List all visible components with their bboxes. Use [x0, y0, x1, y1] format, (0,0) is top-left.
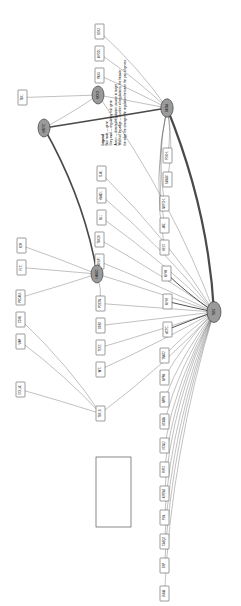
graph-edge	[100, 32, 168, 109]
gene-node[interactable]: RYR2	[160, 462, 169, 477]
gene-node-label: ATP2A2	[162, 488, 166, 498]
hub-node-label: NKX25	[96, 90, 100, 99]
gene-node-label: TBX20	[97, 235, 101, 243]
gene-node[interactable]: TBX18	[96, 406, 105, 421]
gene-node-label: DSP	[162, 563, 166, 569]
graph-edge	[21, 274, 98, 298]
gene-node[interactable]: JAG1	[160, 218, 169, 233]
gene-node[interactable]: KDR	[17, 238, 26, 253]
gene-node-label: KCNJ2	[162, 441, 166, 450]
gene-node-label: PLN	[162, 515, 166, 520]
hub-node-label: MEF2C	[42, 123, 46, 132]
gene-node-label: FLT1	[19, 264, 23, 270]
gene-node-label: NOTCH1	[162, 198, 166, 209]
gene-node-label: NPPA	[162, 374, 166, 381]
gene-node-label: MESP1	[97, 257, 101, 266]
legend-box	[96, 457, 131, 527]
gene-node[interactable]: CDH5	[16, 312, 25, 327]
gene-node[interactable]: TNNT2	[160, 348, 169, 363]
graph-edge	[167, 274, 215, 313]
gene-node[interactable]: KCNJ2	[160, 438, 169, 453]
gene-node-label: POSTN	[98, 299, 102, 308]
gene-node[interactable]: DSP	[160, 558, 169, 573]
gene-node-label: MYOD1	[97, 48, 101, 58]
gene-node[interactable]: FOXH1	[163, 148, 172, 163]
gene-node[interactable]: ATP2A2	[160, 486, 169, 501]
graph-edge	[44, 128, 97, 274]
gene-node-label: WT1	[98, 366, 102, 372]
gene-node-label: PAX3	[97, 72, 101, 79]
gene-node[interactable]: LMNA	[160, 586, 169, 601]
graph-edge	[97, 274, 214, 312]
gene-node-label: HEY2	[162, 244, 166, 251]
legend: LegendBox node — geneGrey oval — regulat…	[96, 60, 131, 527]
gene-node[interactable]: SMAD4	[163, 172, 172, 187]
gene-node[interactable]: POSTN	[96, 296, 105, 311]
gene-node[interactable]: MYH6	[162, 266, 171, 281]
legend-layer: LegendBox node — geneGrey oval — regulat…	[96, 60, 131, 527]
gene-node[interactable]: SOX2	[95, 24, 104, 39]
graph-edge	[102, 196, 215, 313]
gene-node[interactable]: ACTC1	[163, 322, 172, 337]
gene-node[interactable]: ISL1	[97, 210, 106, 225]
gene-node-label: CASQ2	[162, 537, 166, 546]
gene-node[interactable]: PAX3	[95, 68, 104, 83]
gene-node[interactable]: VWF	[16, 334, 25, 349]
hub-node-label: TBX5	[212, 308, 216, 315]
gene-node[interactable]: HEY2	[160, 240, 169, 255]
gene-node[interactable]: FLT1	[17, 260, 26, 275]
gene-node-label: VWF	[18, 338, 22, 344]
gene-node[interactable]: MYH7	[163, 294, 172, 309]
gene-node-label: MYH6	[164, 269, 168, 277]
gene-node-label: DDR2	[98, 321, 102, 329]
gene-node-label: GJA1	[99, 170, 103, 177]
graph-edge	[102, 218, 215, 313]
hub-node-label: GATA4	[165, 103, 169, 112]
hub-layer: TBX5GATA4NKX25MEF2CHAND2	[38, 86, 221, 323]
gene-node[interactable]: GJA1	[97, 166, 106, 181]
graph-edge	[21, 320, 101, 414]
gene-node-label: TBX18	[98, 409, 102, 417]
gene-node[interactable]: NPPB	[160, 392, 169, 407]
gene-node-label: SMAD4	[165, 174, 169, 183]
gene-node[interactable]: NPPA	[160, 370, 169, 385]
hub-node[interactable]: NKX25	[92, 86, 104, 104]
gene-node[interactable]: CASQ2	[160, 534, 169, 549]
graph-edge	[21, 390, 101, 414]
gene-node[interactable]: DDR2	[96, 318, 105, 333]
gene-node-label: JAG1	[162, 222, 166, 229]
legend-line: the edge the stronger the regulation bet…	[123, 60, 127, 146]
gene-node-label: SOX2	[97, 27, 101, 34]
legend-line: Arrow — directed regulation: source to t…	[114, 84, 118, 146]
hub-node[interactable]: MEF2C	[38, 119, 50, 137]
gene-node[interactable]: SCN5A	[160, 414, 169, 429]
hub-node-label: HAND2	[95, 269, 99, 279]
gene-node-label: HAND1	[99, 191, 103, 200]
gene-node[interactable]: NOTCH1	[160, 196, 169, 211]
graph-edge	[101, 312, 215, 326]
graph-edge	[22, 246, 98, 275]
legend-line: Width of the edge — number of regulation…	[118, 69, 122, 145]
graph-edge	[100, 240, 215, 313]
gene-node-label: COL1A1	[18, 384, 22, 395]
hub-node[interactable]: GATA4	[161, 99, 173, 117]
hub-node[interactable]: HAND2	[91, 265, 103, 283]
gene-node[interactable]: WT1	[96, 362, 105, 377]
gene-node-label: MYH7	[165, 297, 169, 305]
graph-edge	[167, 108, 214, 312]
legend-line: Box node — gene	[105, 120, 109, 145]
gene-node-label: NPPB	[162, 396, 166, 403]
graph-edge	[165, 312, 215, 518]
gene-node-label: ACTC1	[165, 325, 169, 334]
gene-node[interactable]: HAND1	[97, 188, 106, 203]
gene-node-label: PECAM1	[18, 292, 22, 303]
gene-node[interactable]: TBX1	[18, 90, 27, 105]
gene-node-label: KDR	[19, 243, 23, 249]
gene-node[interactable]: TCF21	[96, 340, 105, 355]
gene-node[interactable]: COL1A1	[16, 382, 25, 397]
gene-node[interactable]: PLN	[160, 510, 169, 525]
gene-node[interactable]: MYOD1	[95, 46, 104, 61]
gene-node[interactable]: TBX20	[95, 232, 104, 247]
gene-node[interactable]: PECAM1	[16, 290, 25, 305]
hub-node[interactable]: TBX5	[207, 302, 221, 323]
